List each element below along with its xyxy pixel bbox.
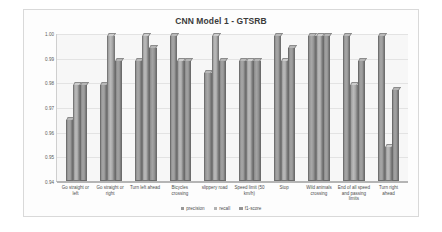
bar-group	[337, 34, 372, 181]
bar-f1-score[interactable]	[80, 82, 87, 181]
bar-precision[interactable]	[135, 58, 142, 181]
bar-precision[interactable]	[66, 117, 73, 181]
bar-body	[246, 61, 253, 181]
y-axis-tick-label: 0.94	[45, 180, 54, 185]
bar-precision[interactable]	[274, 33, 281, 181]
bar-body	[378, 36, 385, 181]
chart-title: CNN Model 1 - GTSRB	[24, 16, 418, 26]
bar-precision[interactable]	[204, 70, 211, 181]
bar-top-cap	[378, 33, 387, 36]
bar-body	[170, 36, 177, 181]
bar-body	[80, 85, 87, 181]
bar-body	[204, 73, 211, 181]
bar-body	[392, 90, 399, 181]
bar-group	[94, 34, 129, 181]
y-axis-tick-label: 1.00	[45, 32, 54, 37]
chart-container: CNN Model 1 - GTSRB 0.940.950.960.970.98…	[23, 9, 419, 217]
bar-precision[interactable]	[239, 58, 246, 181]
x-axis-category-label: slippery road	[197, 185, 232, 202]
bar-body	[107, 36, 114, 181]
bar-f1-score[interactable]	[115, 58, 122, 181]
y-axis-tick-label: 0.98	[45, 81, 54, 86]
x-axis-category-label: Turn left ahead	[128, 185, 163, 202]
x-axis-labels: Go straight or leftGo straight or rightT…	[56, 185, 408, 202]
bar-precision[interactable]	[170, 33, 177, 181]
bar-precision[interactable]	[378, 33, 385, 181]
bar-body	[142, 36, 149, 181]
bar-recall[interactable]	[73, 82, 80, 181]
bar-recall[interactable]	[177, 58, 184, 181]
bar-body	[149, 48, 156, 181]
bar-body	[253, 61, 260, 181]
bar-precision[interactable]	[308, 33, 315, 181]
bar-group	[302, 34, 337, 181]
legend-swatch-icon	[214, 207, 218, 211]
bar-body	[316, 36, 323, 181]
bar-precision[interactable]	[343, 33, 350, 181]
bar-body	[281, 61, 288, 181]
bar-top-cap	[170, 33, 179, 36]
legend-label: precision	[186, 206, 204, 211]
bar-recall[interactable]	[246, 58, 253, 181]
bar-group	[267, 34, 302, 181]
y-axis-tick-label: 0.99	[45, 56, 54, 61]
bar-top-cap	[142, 33, 151, 36]
bar-f1-score[interactable]	[149, 45, 156, 181]
bar-top-cap	[107, 33, 116, 36]
bar-group	[163, 34, 198, 181]
bar-body	[177, 61, 184, 181]
x-axis-category-label: Go straight or left	[58, 185, 93, 202]
bar-top-cap	[149, 45, 158, 48]
bar-f1-score[interactable]	[358, 58, 365, 181]
bar-top-cap	[392, 87, 401, 90]
bar-f1-score[interactable]	[323, 33, 330, 181]
bar-top-cap	[80, 82, 89, 85]
bar-body	[135, 61, 142, 181]
bar-recall[interactable]	[385, 144, 392, 181]
bar-recall[interactable]	[316, 33, 323, 181]
bar-recall[interactable]	[281, 58, 288, 181]
bar-body	[274, 36, 281, 181]
bar-body	[212, 36, 219, 181]
bar-body	[66, 120, 73, 181]
bar-body	[358, 61, 365, 181]
bar-top-cap	[212, 33, 221, 36]
x-axis-category-label: Stop	[267, 185, 302, 202]
bar-body	[239, 61, 246, 181]
y-axis-tick-label: 0.96	[45, 130, 54, 135]
bar-f1-score[interactable]	[253, 58, 260, 181]
x-axis-category-label: Speed limit (50 km/h)	[232, 185, 267, 202]
legend-item-recall[interactable]: recall	[214, 206, 231, 211]
bar-top-cap	[219, 58, 228, 61]
y-axis-tick-label: 0.97	[45, 106, 54, 111]
bar-group	[128, 34, 163, 181]
bar-top-cap	[288, 45, 297, 48]
legend-item-precision[interactable]: precision	[181, 206, 205, 211]
bar-recall[interactable]	[350, 82, 357, 181]
bar-body	[343, 36, 350, 181]
legend-item-f1-score[interactable]: f1-score	[239, 206, 261, 211]
bar-top-cap	[358, 58, 367, 61]
gridline	[57, 182, 408, 183]
bar-body	[350, 85, 357, 181]
bar-precision[interactable]	[100, 82, 107, 181]
bar-body	[219, 61, 226, 181]
bar-top-cap	[253, 58, 262, 61]
bar-f1-score[interactable]	[219, 58, 226, 181]
legend-swatch-icon	[239, 207, 243, 211]
bar-body	[115, 61, 122, 181]
bar-top-cap	[343, 33, 352, 36]
bar-recall[interactable]	[107, 33, 114, 181]
bar-group	[371, 34, 406, 181]
bar-group	[59, 34, 94, 181]
bar-f1-score[interactable]	[392, 87, 399, 181]
bar-recall[interactable]	[142, 33, 149, 181]
bar-body	[308, 36, 315, 181]
legend-label: recall	[219, 206, 230, 211]
bar-recall[interactable]	[212, 33, 219, 181]
bar-body	[323, 36, 330, 181]
bar-group	[233, 34, 268, 181]
bar-f1-score[interactable]	[288, 45, 295, 181]
x-axis-category-label: End of all speed and passing limits	[336, 185, 371, 202]
bar-f1-score[interactable]	[184, 58, 191, 181]
